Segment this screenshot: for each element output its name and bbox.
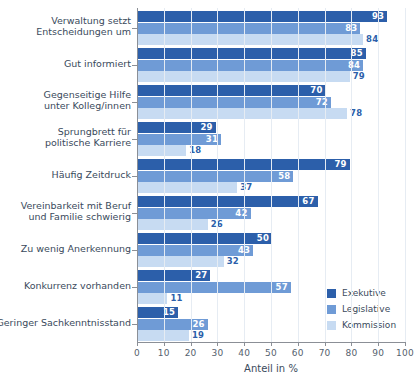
category-label-line: Häufig Zeitdruck: [0, 169, 131, 180]
category-label: Gut informiert: [0, 58, 131, 69]
x-tick: [325, 342, 326, 346]
gridline: [244, 8, 245, 342]
bar: [138, 145, 186, 156]
bar: [138, 196, 318, 207]
x-axis-title: Anteil in %: [137, 363, 405, 374]
bar-value-label: 50: [256, 233, 269, 244]
x-tick: [137, 342, 138, 346]
category-label-line: Verwaltung setzt: [0, 15, 131, 26]
gridline: [351, 8, 352, 342]
bar: [138, 233, 272, 244]
bar-value-label: 70: [310, 85, 323, 96]
x-tick: [271, 342, 272, 346]
x-tick: [217, 342, 218, 346]
bar-value-label: 26: [192, 319, 205, 330]
x-tick-label: 60: [283, 348, 313, 358]
x-tick-label: 30: [202, 348, 232, 358]
bar-value-label: 19: [192, 330, 204, 341]
x-tick: [405, 342, 406, 346]
x-tick: [351, 342, 352, 346]
gridline: [298, 8, 299, 342]
gridline: [405, 8, 406, 342]
bar-value-label: 27: [194, 270, 207, 281]
gridline: [217, 8, 218, 342]
category-label-line: Gut informiert: [0, 58, 131, 69]
bar-value-label: 32: [227, 256, 239, 267]
gridline: [325, 8, 326, 342]
bar-value-label: 84: [347, 60, 360, 71]
y-tick: [132, 28, 137, 29]
category-label-line: und Familie schwierig: [0, 211, 131, 222]
legend-swatch-icon: [327, 321, 336, 330]
bar: [138, 108, 347, 119]
x-tick-label: 100: [390, 348, 419, 358]
bar: [138, 23, 360, 34]
legend-swatch-icon: [327, 289, 336, 298]
category-label-line: unter Kolleg/innen: [0, 100, 131, 111]
category-label: Gegenseitige Hilfeunter Kolleg/innen: [0, 89, 131, 111]
y-tick: [132, 176, 137, 177]
category-label-line: Entscheidungen um: [0, 26, 131, 37]
category-label: Häufig Zeitdruck: [0, 169, 131, 180]
x-tick-label: 90: [363, 348, 393, 358]
gridline: [378, 8, 379, 342]
category-label-line: Sprungbrett für: [0, 126, 131, 137]
legend-item[interactable]: Legislative: [327, 302, 396, 316]
category-label-line: Gegenseitige Hilfe: [0, 89, 131, 100]
bar: [138, 219, 208, 230]
x-tick: [164, 342, 165, 346]
bar-chart: 0102030405060708090100 Anteil in % Verwa…: [0, 0, 419, 380]
category-label: Sprungbrett fürpolitische Karriere: [0, 126, 131, 148]
gridline: [271, 8, 272, 342]
bar: [138, 34, 363, 45]
legend-label: Legislative: [342, 304, 390, 314]
category-label: Verwaltung setztEntscheidungen um: [0, 15, 131, 37]
bar-value-label: 58: [277, 171, 290, 182]
bar: [138, 60, 363, 71]
bar-value-label: 42: [235, 208, 248, 219]
y-tick: [132, 139, 137, 140]
legend-item[interactable]: Kommission: [327, 318, 396, 332]
x-tick-label: 40: [229, 348, 259, 358]
gridline: [164, 8, 165, 342]
bar-value-label: 67: [302, 196, 315, 207]
x-tick-label: 80: [336, 348, 366, 358]
bar: [138, 11, 387, 22]
category-label-line: Konkurrenz vorhanden: [0, 280, 131, 291]
y-tick: [132, 250, 137, 251]
bar: [138, 282, 291, 293]
x-tick: [244, 342, 245, 346]
bar-value-label: 79: [334, 159, 347, 170]
legend-label: Kommission: [342, 320, 396, 330]
gridline: [191, 8, 192, 342]
y-tick: [132, 324, 137, 325]
legend-swatch-icon: [327, 305, 336, 314]
category-label: Vereinbarkeit mit Berufund Familie schwi…: [0, 200, 131, 222]
chart-legend: ExekutiveLegislativeKommission: [327, 286, 396, 334]
bar-value-label: 11: [170, 293, 182, 304]
bar-value-label: 79: [353, 71, 365, 82]
y-tick: [132, 213, 137, 214]
x-tick-label: 0: [122, 348, 152, 358]
bar: [138, 97, 331, 108]
category-label-line: Vereinbarkeit mit Beruf: [0, 200, 131, 211]
legend-item[interactable]: Exekutive: [327, 286, 396, 300]
x-tick-label: 50: [256, 348, 286, 358]
bar-value-label: 29: [200, 122, 213, 133]
x-tick: [191, 342, 192, 346]
category-label-line: politische Karriere: [0, 137, 131, 148]
category-label: Geringer Sachkenntnisstand: [0, 317, 131, 328]
category-label-line: Zu wenig Anerkennung: [0, 243, 131, 254]
bar: [138, 256, 224, 267]
category-label: Zu wenig Anerkennung: [0, 243, 131, 254]
bar-value-label: 84: [366, 34, 378, 45]
x-tick: [298, 342, 299, 346]
bar-value-label: 57: [275, 282, 288, 293]
x-tick: [378, 342, 379, 346]
bar-value-label: 37: [240, 182, 252, 193]
legend-label: Exekutive: [342, 288, 386, 298]
x-tick-label: 20: [176, 348, 206, 358]
y-tick: [132, 65, 137, 66]
y-tick: [132, 287, 137, 288]
category-label: Konkurrenz vorhanden: [0, 280, 131, 291]
